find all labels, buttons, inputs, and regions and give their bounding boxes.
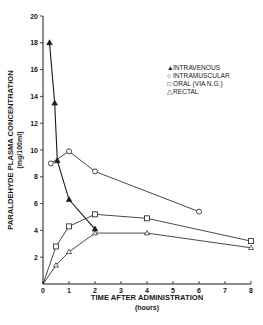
legend: ▲ INTRAVENOUS ○ INTRAMUSCULAR □ ORAL (VI… bbox=[167, 64, 230, 95]
filled-triangle-marker bbox=[52, 100, 58, 105]
series-line bbox=[43, 214, 251, 284]
legend-label: RECTAL bbox=[173, 88, 199, 95]
legend-item-intramuscular: ○ INTRAMUSCULAR bbox=[167, 72, 230, 79]
series-intramuscular bbox=[48, 149, 201, 214]
y-tick-label: 8 bbox=[34, 173, 38, 180]
series-intravenous bbox=[47, 40, 98, 231]
axes: 0123456782468101214161820 bbox=[30, 13, 253, 295]
x-axis-title: TIME AFTER ADMINISTRATION bbox=[91, 293, 203, 302]
legend-item-oral: □ ORAL (VIA N.G.) bbox=[167, 80, 223, 88]
open-triangle-marker bbox=[67, 249, 72, 253]
open-square-marker bbox=[93, 212, 98, 217]
y-tick-label: 12 bbox=[30, 120, 38, 127]
open-square-marker bbox=[67, 224, 72, 229]
series-line bbox=[51, 151, 199, 211]
series-line bbox=[43, 233, 251, 284]
open-triangle-marker bbox=[145, 230, 150, 234]
legend-symbol-open-square-icon: □ bbox=[167, 80, 171, 87]
y-tick-label: 14 bbox=[30, 93, 38, 100]
open-circle-marker bbox=[67, 149, 72, 154]
y-tick-label: 4 bbox=[34, 227, 38, 234]
y-tick-label: 10 bbox=[30, 147, 38, 154]
open-square-marker bbox=[145, 216, 150, 221]
series-rectal bbox=[43, 230, 254, 284]
y-tick-label: 18 bbox=[30, 39, 38, 46]
open-circle-marker bbox=[197, 209, 202, 214]
series-line bbox=[50, 43, 96, 229]
x-tick-label: 1 bbox=[67, 287, 71, 294]
x-tick-label: 8 bbox=[249, 287, 253, 294]
y-tick-label: 20 bbox=[30, 13, 38, 20]
x-tick-label: 7 bbox=[223, 287, 227, 294]
legend-label: INTRAMUSCULAR bbox=[173, 72, 230, 79]
y-axis-title: PARALDEHYDE PLASMA CONCENTRATION bbox=[6, 70, 15, 229]
legend-label: INTRAVENOUS bbox=[173, 64, 221, 71]
open-square-marker bbox=[249, 239, 254, 244]
filled-triangle-marker bbox=[47, 40, 53, 45]
y-tick-label: 16 bbox=[30, 66, 38, 73]
open-square-marker bbox=[54, 244, 59, 249]
filled-triangle-marker bbox=[66, 197, 72, 202]
x-tick-label: 0 bbox=[41, 287, 45, 294]
open-circle-marker bbox=[93, 169, 98, 174]
x-axis-subtitle: (hours) bbox=[135, 304, 159, 312]
legend-label: ORAL (VIA N.G.) bbox=[173, 80, 223, 88]
y-tick-label: 6 bbox=[34, 200, 38, 207]
legend-symbol-open-circle-icon: ○ bbox=[167, 72, 171, 79]
legend-item-intravenous: ▲ INTRAVENOUS bbox=[167, 64, 221, 71]
legend-item-rectal: △ RECTAL bbox=[167, 88, 199, 95]
y-axis-subtitle: (mg/100ml) bbox=[16, 132, 24, 169]
paraldehyde-concentration-chart: 0123456782468101214161820 TIME AFTER ADM… bbox=[0, 0, 263, 325]
open-circle-marker bbox=[48, 161, 53, 166]
y-tick-label: 2 bbox=[34, 254, 38, 261]
